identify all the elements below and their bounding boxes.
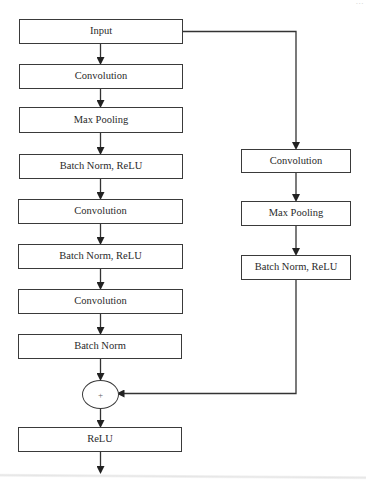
node-addition-sum: + bbox=[82, 380, 119, 409]
edge-input-shortcut bbox=[183, 32, 296, 149]
node-input: Input bbox=[19, 19, 183, 44]
node-convolution-1: Convolution bbox=[19, 64, 183, 89]
plus-icon: + bbox=[98, 390, 103, 400]
node-batch-norm-3: Batch Norm bbox=[18, 334, 182, 359]
node-max-pooling-1: Max Pooling bbox=[19, 107, 183, 133]
node-relu-output: ReLU bbox=[18, 427, 182, 452]
node-convolution-3: Convolution bbox=[18, 289, 183, 314]
node-shortcut-max-pooling: Max Pooling bbox=[241, 201, 351, 226]
node-convolution-2: Convolution bbox=[18, 199, 183, 224]
node-batch-norm-relu-2: Batch Norm, ReLU bbox=[18, 244, 183, 269]
node-batch-norm-relu-1: Batch Norm, ReLU bbox=[19, 154, 183, 179]
node-shortcut-convolution: Convolution bbox=[241, 149, 351, 173]
residual-block-diagram: ... Input Convolution Max Pooling Batch … bbox=[0, 0, 366, 490]
node-shortcut-batch-norm-relu: Batch Norm, ReLU bbox=[241, 255, 351, 280]
